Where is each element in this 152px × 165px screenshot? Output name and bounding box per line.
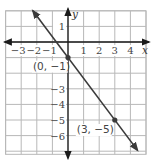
y-tick-label: 1 <box>59 21 65 32</box>
point-label: (3, −5) <box>77 123 114 135</box>
coordinate-plane: −3−2−112341−3−4−5−6 (0, −1)(3, −5) x y <box>0 0 152 165</box>
data-point <box>112 117 117 122</box>
x-tick-label: 3 <box>112 45 118 56</box>
y-tick-label: −3 <box>50 84 65 95</box>
x-axis-label: x <box>142 44 148 56</box>
x-tick-label: −1 <box>42 45 57 56</box>
point-label: (0, −1) <box>33 60 70 72</box>
y-axis-label: y <box>71 8 79 20</box>
x-tick-label: −3 <box>11 45 26 56</box>
x-tick-label: 2 <box>96 45 102 56</box>
x-tick-label: 4 <box>127 45 133 56</box>
y-tick-label: −6 <box>50 131 65 142</box>
x-tick-label: 1 <box>80 45 86 56</box>
y-tick-label: −4 <box>50 99 65 110</box>
y-tick-label: −5 <box>50 115 65 126</box>
x-tick-label: −2 <box>26 45 41 56</box>
